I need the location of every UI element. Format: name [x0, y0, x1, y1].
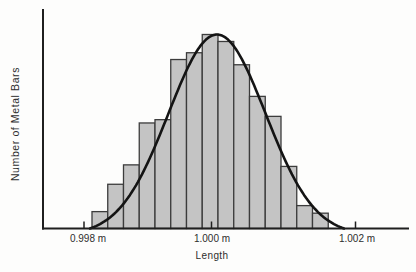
histogram-figure: Number of Metal Bars 0.998 m 1.000 m 1.0… — [0, 0, 416, 272]
x-tick-label-0998: 0.998 m — [48, 234, 128, 244]
histogram-bar — [281, 166, 297, 228]
histogram-bar — [202, 35, 218, 229]
histogram-bar — [297, 206, 313, 229]
histogram-bar — [187, 53, 203, 229]
histogram-bar — [218, 41, 234, 228]
x-axis-label: Length — [172, 251, 252, 261]
histogram-bar — [234, 65, 250, 229]
histogram-bar — [155, 120, 171, 229]
histogram-bar — [171, 60, 187, 229]
x-tick-label-1000: 1.000 m — [172, 234, 252, 244]
histogram-bar — [250, 96, 266, 228]
histogram-bar — [124, 165, 140, 229]
x-tick-label-1002: 1.002 m — [317, 234, 397, 244]
y-axis-label: Number of Metal Bars — [10, 59, 20, 189]
histogram-plot — [0, 0, 416, 272]
